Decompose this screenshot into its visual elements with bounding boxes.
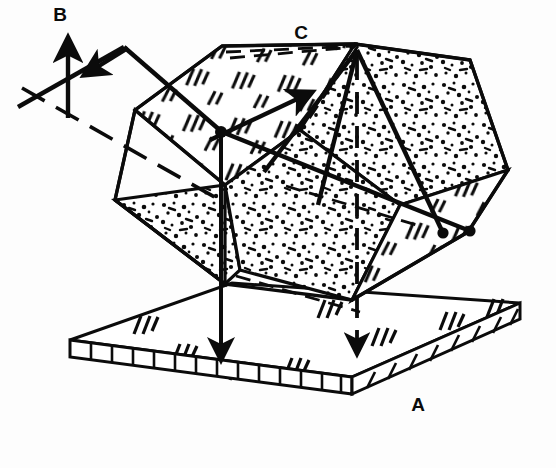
- label-a: A: [411, 394, 425, 415]
- figure-container: B C A: [0, 0, 556, 468]
- node-marker-right: [464, 225, 475, 236]
- ray-b-return-arrow: [86, 48, 128, 74]
- base-plate: [70, 283, 520, 394]
- node-marker-left: [215, 126, 227, 138]
- node-marker-mid-right: [437, 227, 448, 238]
- label-b: B: [53, 4, 67, 25]
- technical-diagram: B C A: [0, 0, 556, 468]
- incoming-ray-segment: [18, 47, 124, 107]
- label-c: C: [294, 22, 308, 43]
